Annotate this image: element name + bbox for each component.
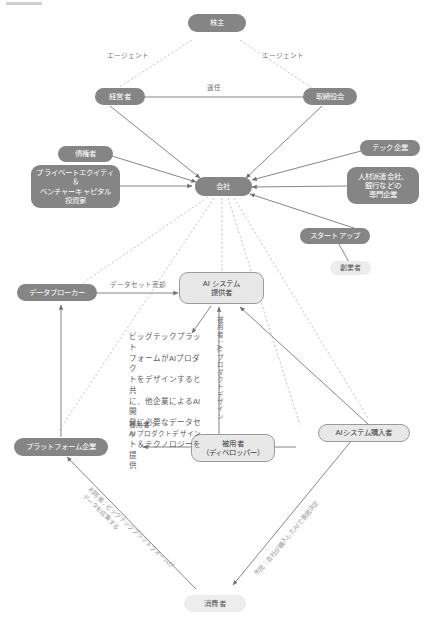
node-platform-companies-label: プラットフォーム企業 <box>26 442 97 451</box>
edge-note-bigtech-platform: ビッグテックプラット フォームがAIプロダク トをデザインすると共 に、他企業に… <box>129 332 207 472</box>
node-startups[interactable]: スタートアップ <box>300 228 370 244</box>
node-ai-system-provider[interactable]: AI システム 提供者 <box>179 272 264 304</box>
node-data-broker-label: データブローカー <box>29 288 86 297</box>
node-startups-label: スタートアップ <box>310 231 360 240</box>
diagram-canvas: 株主 経営者 取締役会 債権者 プライベートエクイティ ＆ ベンチャーキャピタル… <box>0 0 432 627</box>
node-ai-system-provider-label: AI システム 提供者 <box>203 279 241 297</box>
node-consumers-label: 消費者 <box>204 599 225 608</box>
node-specialist-firms-label: 人材派遣会社、 銀行などの 専門企業 <box>358 172 408 199</box>
node-specialist-firms[interactable]: 人材派遣会社、 銀行などの 専門企業 <box>347 167 419 204</box>
node-ai-system-purchaser-label: AIシステム購入者 <box>336 428 393 437</box>
node-platform-companies[interactable]: プラットフォーム企業 <box>14 438 108 456</box>
node-shareholders-label: 株主 <box>210 18 224 27</box>
node-board-label: 取締役会 <box>316 92 344 101</box>
node-board[interactable]: 取締役会 <box>303 88 357 105</box>
node-company[interactable]: 会社 <box>195 177 252 196</box>
node-creditors[interactable]: 債権者 <box>58 146 113 162</box>
node-founders-label: 創業者 <box>340 264 361 273</box>
node-data-broker[interactable]: データブローカー <box>17 284 97 301</box>
node-employee-developer-label: 被用者 （ディベロッパー） <box>202 439 265 457</box>
node-management-label: 経営者 <box>109 92 130 101</box>
edge-label-agent-left: エージェント <box>107 52 149 61</box>
node-consumers[interactable]: 消費者 <box>184 595 246 612</box>
edge-label-agent-right: エージェント <box>262 52 304 61</box>
node-company-label: 会社 <box>216 182 230 191</box>
edge-layer <box>0 0 432 627</box>
edge-label-employee-ai-product-design-vertical: 被用者：AI プロダクトデザイン <box>214 316 224 434</box>
node-shareholders[interactable]: 株主 <box>188 14 246 32</box>
node-founders[interactable]: 創業者 <box>330 261 371 275</box>
node-tech-firms-label: テック企業 <box>372 143 408 152</box>
node-creditors-label: 債権者 <box>75 149 96 158</box>
edge-label-appointment: 選任 <box>207 84 221 93</box>
node-pe-vc-investors-label: プライベートエクイティ ＆ ベンチャーキャピタル 投資家 <box>36 168 114 204</box>
node-management[interactable]: 経営者 <box>95 88 145 105</box>
edge-label-employee-ai-product-design: 被用者： AI プロダクトデザイン <box>129 421 201 439</box>
edge-label-dataset-sale: データセット売却 <box>110 281 166 290</box>
node-tech-firms[interactable]: テック企業 <box>360 140 420 156</box>
node-pe-vc-investors[interactable]: プライベートエクイティ ＆ ベンチャーキャピタル 投資家 <box>31 165 120 208</box>
node-ai-system-purchaser[interactable]: AIシステム購入者 <box>318 424 410 442</box>
